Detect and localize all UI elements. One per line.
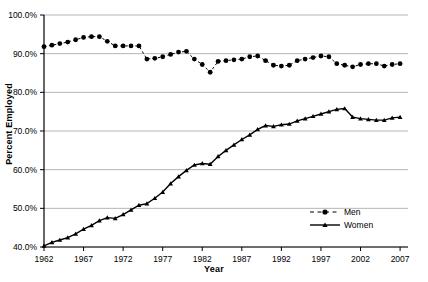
x-axis-ticks-group: 1962196719721977198219871992199720022007	[35, 247, 410, 264]
series-men	[42, 34, 403, 74]
data-point	[50, 43, 55, 48]
data-point	[200, 62, 205, 67]
y-tick-label: 40.0%	[13, 242, 38, 252]
x-tick-label: 1977	[153, 254, 172, 264]
data-point	[192, 57, 197, 62]
data-point	[121, 44, 126, 49]
employment-rate-line-chart: Percent Employed 100.0%90.0%80.0%70.0%60…	[0, 0, 428, 282]
data-point	[208, 70, 213, 75]
data-point	[263, 58, 268, 63]
x-tick-label: 1997	[311, 254, 330, 264]
legend-label: Women	[344, 220, 373, 230]
data-point	[105, 39, 110, 44]
data-point	[334, 61, 339, 66]
y-tick-label: 50.0%	[13, 203, 38, 213]
data-point	[152, 56, 157, 61]
x-tick-label: 1987	[232, 254, 251, 264]
data-point	[342, 63, 347, 68]
data-point	[326, 54, 331, 59]
y-axis-title-container: Percent Employed	[2, 0, 16, 248]
data-point	[319, 54, 324, 59]
data-point	[247, 54, 252, 59]
x-tick-label: 1972	[114, 254, 133, 264]
data-point	[271, 63, 276, 68]
data-point	[239, 57, 244, 62]
data-point	[382, 64, 387, 69]
chart-legend: MenWomen	[310, 207, 373, 230]
data-point	[398, 61, 403, 66]
data-point	[216, 59, 221, 64]
x-tick-label: 2007	[391, 254, 410, 264]
x-tick-label: 1962	[35, 254, 54, 264]
legend-item-women: Women	[310, 220, 373, 230]
y-tick-label: 90.0%	[13, 49, 38, 59]
y-tick-label: 60.0%	[13, 165, 38, 175]
x-tick-label: 1982	[193, 254, 212, 264]
data-point	[287, 63, 292, 68]
data-point	[255, 54, 260, 59]
x-tick-label: 1992	[272, 254, 291, 264]
data-point	[168, 52, 173, 57]
data-point	[113, 44, 118, 49]
data-point	[176, 50, 181, 55]
data-point	[73, 37, 78, 42]
data-point	[303, 57, 308, 62]
series-line	[44, 37, 400, 73]
data-point	[65, 40, 70, 45]
data-point	[232, 57, 237, 62]
data-point	[224, 58, 229, 63]
data-point	[57, 41, 62, 46]
x-tick-label: 2002	[351, 254, 370, 264]
data-point	[390, 62, 395, 67]
y-tick-label: 80.0%	[13, 87, 38, 97]
data-point	[137, 44, 142, 49]
data-point	[279, 64, 284, 69]
data-point	[184, 49, 189, 54]
data-point	[366, 61, 371, 66]
data-point	[97, 34, 102, 39]
x-tick-label: 1967	[74, 254, 93, 264]
data-point	[358, 62, 363, 67]
data-point	[311, 55, 316, 60]
data-point	[42, 44, 47, 49]
data-point	[160, 54, 165, 59]
y-tick-label: 70.0%	[13, 126, 38, 136]
legend-label: Men	[344, 207, 361, 217]
data-point	[89, 34, 94, 39]
x-axis-title: Year	[0, 264, 428, 274]
data-point	[295, 58, 300, 63]
y-axis-title: Percent Employed	[4, 83, 14, 165]
data-point	[81, 35, 86, 40]
data-point	[129, 44, 134, 49]
legend-marker	[322, 209, 327, 214]
data-point	[350, 64, 355, 69]
chart-plot-area: 100.0%90.0%80.0%70.0%60.0%50.0%40.0% 196…	[0, 0, 428, 282]
data-point	[144, 57, 149, 62]
data-point	[374, 61, 379, 66]
